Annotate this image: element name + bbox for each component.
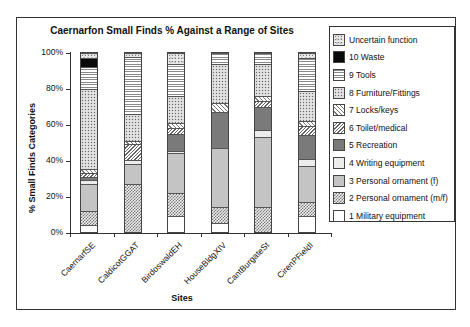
bar-CaernarfSE xyxy=(80,52,98,233)
chart-frame: Caernarfon Small Finds % Against a Range… xyxy=(16,17,456,310)
legend-item-furniture: 8 Furniture/Fittings xyxy=(333,84,451,102)
legend-item-waste: 10 Waste xyxy=(333,49,451,67)
legend-item-tools: 9 Tools xyxy=(333,66,451,84)
bar-segment-tools xyxy=(81,67,97,88)
legend: Uncertain function10 Waste9 Tools8 Furni… xyxy=(329,26,455,222)
bar-segment-furniture xyxy=(255,64,271,96)
bar-CaldicotGGAT xyxy=(124,52,142,233)
legend-label: 4 Writing equipment xyxy=(349,158,424,168)
x-tick xyxy=(70,233,71,237)
bar-segment-ornf xyxy=(81,184,97,211)
bar-segment-ornf xyxy=(125,164,141,184)
bar-segment-ornmf xyxy=(81,211,97,225)
x-tick xyxy=(288,233,289,237)
legend-item-writing: 4 Writing equipment xyxy=(333,154,451,172)
legend-swatch-icon xyxy=(333,122,345,134)
y-tick-label: 20% xyxy=(35,191,63,201)
legend-swatch-icon xyxy=(333,51,345,63)
chart-title: Caernarfon Small Finds % Against a Range… xyxy=(17,25,327,36)
bar-segment-ornf xyxy=(168,153,184,192)
bar-segment-ornf xyxy=(299,166,315,202)
y-tick xyxy=(66,125,70,126)
legend-label: 10 Waste xyxy=(349,52,385,62)
legend-swatch-icon xyxy=(333,175,345,187)
bar-segment-military xyxy=(299,216,315,232)
bar-segment-furniture xyxy=(125,114,141,141)
bar-segment-ornmf xyxy=(255,207,271,232)
x-tick xyxy=(244,233,245,237)
bar-segment-recreation xyxy=(255,107,271,130)
bar-segment-toilet xyxy=(299,126,315,135)
x-tick xyxy=(201,233,202,237)
legend-swatch-icon xyxy=(333,139,345,151)
bar-segment-military xyxy=(168,216,184,232)
bar-segment-ornmf xyxy=(299,202,315,216)
bar-segment-ornf xyxy=(255,137,271,207)
bar-segment-tools xyxy=(125,57,141,114)
bar-segment-ornmf xyxy=(168,193,184,216)
legend-item-uncertain: Uncertain function xyxy=(333,31,451,49)
legend-label: 3 Personal ornament (f) xyxy=(349,176,438,186)
y-tick xyxy=(66,89,70,90)
legend-label: 6 Toilet/medical xyxy=(349,123,407,133)
bar-segment-ornf xyxy=(212,148,228,207)
bar-segment-recreation xyxy=(212,112,228,148)
legend-swatch-icon xyxy=(333,210,345,222)
bar-segment-military xyxy=(81,225,97,232)
legend-item-locks: 7 Locks/keys xyxy=(333,101,451,119)
bar-segment-toilet xyxy=(125,144,141,160)
bar-segment-tools xyxy=(299,58,315,90)
legend-item-toilet: 6 Toilet/medical xyxy=(333,119,451,137)
bar-segment-writing xyxy=(299,159,315,166)
legend-swatch-icon xyxy=(333,87,345,99)
bar-segment-locks xyxy=(212,103,228,112)
legend-swatch-icon xyxy=(333,192,345,204)
y-tick-label: 0% xyxy=(35,227,63,237)
legend-item-ornf: 3 Personal ornament (f) xyxy=(333,172,451,190)
bar-segment-furniture xyxy=(168,96,184,123)
y-tick xyxy=(66,53,70,54)
bar-CirenPFieldI xyxy=(298,52,316,233)
bar-segment-furniture xyxy=(299,91,315,121)
bar-segment-military xyxy=(212,223,228,232)
legend-label: 9 Tools xyxy=(349,70,376,80)
bar-segment-recreation xyxy=(168,134,184,152)
y-axis xyxy=(70,52,71,233)
legend-item-military: 1 Military equipment xyxy=(333,207,451,225)
bar-segment-tools xyxy=(212,53,228,64)
legend-label: 1 Military equipment xyxy=(349,211,425,221)
y-tick-label: 40% xyxy=(35,155,63,165)
bar-segment-ornmf xyxy=(125,184,141,232)
y-tick xyxy=(66,161,70,162)
x-axis-label: Sites xyxy=(17,293,347,303)
legend-item-ornmf: 2 Personal ornament (m/f) xyxy=(333,189,451,207)
legend-swatch-icon xyxy=(333,34,345,46)
bar-segment-writing xyxy=(255,130,271,137)
bar-BirdoswaldEH xyxy=(167,52,185,233)
legend-item-recreation: 5 Recreation xyxy=(333,137,451,155)
legend-label: 8 Furniture/Fittings xyxy=(349,88,420,98)
legend-label: 7 Locks/keys xyxy=(349,105,398,115)
bar-CantBurgateSt xyxy=(254,52,272,233)
legend-label: 5 Recreation xyxy=(349,140,397,150)
legend-label: Uncertain function xyxy=(349,35,418,45)
legend-swatch-icon xyxy=(333,157,345,169)
bar-segment-furniture xyxy=(81,89,97,170)
bar-HouseBldgXIV xyxy=(211,52,229,233)
bar-segment-waste xyxy=(81,58,97,67)
legend-swatch-icon xyxy=(333,104,345,116)
bar-segment-uncertain xyxy=(168,53,184,64)
bar-segment-recreation xyxy=(299,135,315,158)
legend-label: 2 Personal ornament (m/f) xyxy=(349,193,448,203)
x-tick xyxy=(157,233,158,237)
y-tick-label: 60% xyxy=(35,119,63,129)
legend-swatch-icon xyxy=(333,69,345,81)
bar-segment-furniture xyxy=(212,64,228,103)
bar-segment-ornmf xyxy=(212,207,228,223)
y-tick-label: 80% xyxy=(35,83,63,93)
x-tick xyxy=(114,233,115,237)
y-tick-label: 100% xyxy=(35,47,63,57)
bar-segment-tools xyxy=(168,64,184,96)
bar-segment-tools xyxy=(255,53,271,64)
x-tick xyxy=(331,233,332,237)
